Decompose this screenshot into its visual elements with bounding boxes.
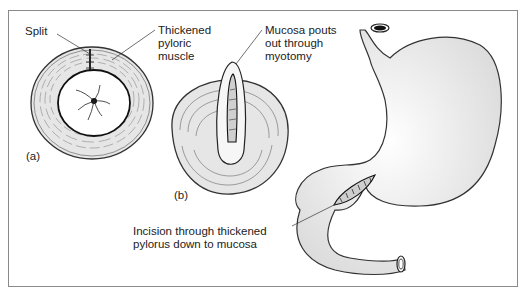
annotation-incision: Incision through thickened pylorus down … <box>133 225 267 251</box>
annotation-split: Split <box>25 25 47 38</box>
annotation-mucosa: Mucosa pouts out through myotomy <box>265 24 337 63</box>
panel-a-cross-section <box>31 30 155 159</box>
annotation-thickened-muscle: Thickened pyloric muscle <box>158 24 211 63</box>
panel-b-label: (b) <box>174 189 188 202</box>
panel-a-label: (a) <box>26 150 40 163</box>
